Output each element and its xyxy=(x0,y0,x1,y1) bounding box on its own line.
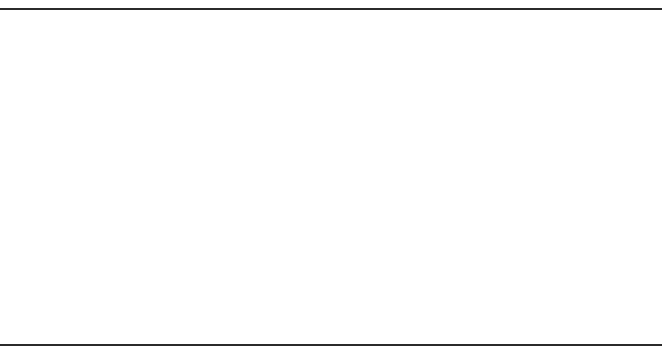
plot-area xyxy=(0,0,662,348)
chart-figure xyxy=(0,0,662,348)
